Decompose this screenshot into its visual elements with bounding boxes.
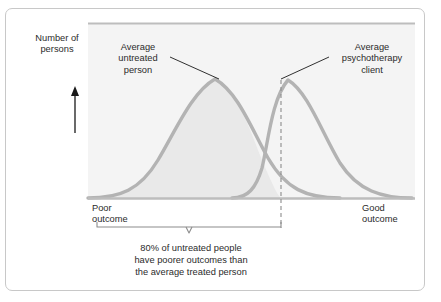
annotation-untreated-person: Average untreated person bbox=[104, 42, 172, 76]
x-axis-label-good-outcome: Good outcome bbox=[362, 203, 424, 226]
y-axis-label: Number of persons bbox=[14, 33, 100, 56]
x-axis-label-poor-outcome: Poor outcome bbox=[92, 203, 154, 226]
annotation-psychotherapy-client: Average psychotherapy client bbox=[330, 42, 414, 76]
figure-caption: 80% of untreated people have poorer outc… bbox=[96, 243, 286, 278]
y-axis-arrow bbox=[71, 86, 79, 133]
figure-container: Number of persons Average untreated pers… bbox=[0, 0, 441, 302]
